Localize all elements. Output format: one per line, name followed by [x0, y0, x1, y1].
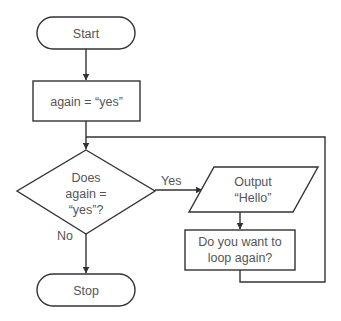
node-start: Start: [37, 17, 135, 49]
node-ask: Do you want to loop again?: [185, 230, 295, 270]
input-output-shape: [189, 167, 318, 212]
node-decision: Does again = “yes”?: [17, 150, 155, 234]
node-init-label: again = “yes”: [50, 95, 123, 109]
node-ask-line-2: loop again?: [208, 251, 273, 265]
flowchart-canvas: Start again = “yes” Does again = “yes”? …: [0, 0, 341, 321]
node-decision-line-2: again =: [65, 187, 106, 201]
edge-label-no: No: [57, 229, 73, 243]
node-decision-line-1: Does: [71, 171, 100, 185]
node-ask-line-1: Do you want to: [198, 235, 281, 249]
node-stop-label: Stop: [73, 284, 99, 298]
node-output-line-1: Output: [234, 175, 272, 189]
edge-label-yes: Yes: [161, 174, 181, 188]
node-init: again = “yes”: [33, 81, 140, 121]
node-output: Output “Hello”: [189, 167, 318, 212]
node-start-label: Start: [73, 27, 100, 41]
node-decision-line-3: “yes”?: [69, 203, 104, 217]
node-stop: Stop: [37, 274, 135, 306]
node-output-line-2: “Hello”: [235, 191, 272, 205]
